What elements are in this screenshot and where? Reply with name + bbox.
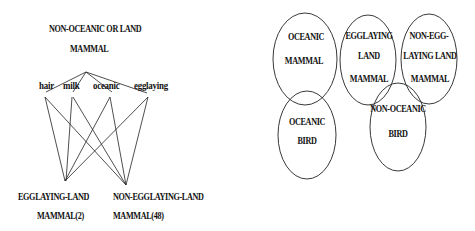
attribute-hair: hair — [39, 80, 54, 91]
set-oceanic-bird-line1: OCEANIC — [289, 117, 325, 127]
bottom-node-egglaying-land-line1: EGGLAYING-LAND — [18, 192, 89, 202]
edge-oceanic-egglaying-land — [65, 97, 110, 181]
bottom-node-nonegglaying-land-line2: MAMMAL(48) — [113, 211, 164, 221]
top-node-line1: NON-OCEANIC OR LAND — [49, 24, 141, 34]
top-node-line2: MAMMAL — [70, 44, 108, 54]
attribute-egglaying: egglaying — [134, 80, 168, 91]
set-oceanic-bird-line2: BIRD — [297, 136, 316, 146]
set-non-egglaying-land-mammal-line2: LAYING LAND — [403, 51, 456, 61]
attribute-oceanic: oceanic — [93, 80, 119, 91]
bottom-node-egglaying-land-line2: MAMMAL(2) — [37, 211, 84, 221]
set-oceanic-mammal-line1: OCEANIC — [288, 32, 324, 42]
set-non-egglaying-land-mammal-line1: NON-EGG- — [409, 31, 448, 41]
bottom-node-nonegglaying-land-line1: NON-EGGLAYING-LAND — [113, 192, 204, 202]
set-egglaying-land-mammal-line2: LAND — [358, 51, 380, 61]
set-egglaying-land-mammal-line1: EGGLAYING — [345, 31, 392, 41]
edge-egglaying-egglaying-land — [65, 97, 148, 181]
set-non-oceanic-bird-line1: NON-OCEANIC — [370, 104, 426, 114]
set-oceanic-mammal-line2: MAMMAL — [285, 56, 323, 66]
edge-hair-nonegglaying-land — [45, 97, 126, 185]
set-oceanic-bird — [278, 91, 336, 179]
attribute-milk: milk — [63, 80, 79, 91]
edge-hair-egglaying-land — [45, 97, 65, 181]
set-non-oceanic-bird — [370, 83, 426, 171]
set-non-egglaying-land-mammal-line3: MAMMAL — [411, 74, 449, 84]
edge-milk-egglaying-land — [66, 97, 72, 181]
edge-egglaying-nonegglaying-land — [126, 97, 148, 185]
set-egglaying-land-mammal-line3: MAMMAL — [350, 74, 388, 84]
set-non-oceanic-bird-line2: BIRD — [388, 129, 407, 139]
